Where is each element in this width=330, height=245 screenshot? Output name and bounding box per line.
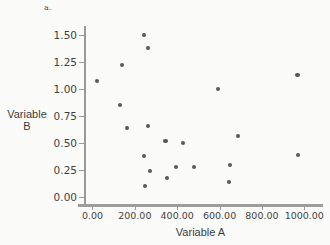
x-tick-label: 800.00 [245,210,278,221]
data-point [192,165,196,169]
data-point [227,180,231,184]
data-point [174,165,178,169]
data-point [228,163,232,167]
y-tick-label: 1.50 [54,29,77,41]
y-axis-title-line: B [2,120,52,132]
plot-area [84,26,317,204]
x-tick-label: 600.00 [203,210,236,221]
x-axis-line [78,204,323,207]
panel-label: a. [44,3,52,12]
x-axis-title: Variable A [84,226,317,238]
y-axis-title-line: Variable [2,108,52,120]
x-tick-label: 400.00 [161,210,194,221]
scatter-plot-figure: a. 0.000.250.500.751.001.251.50 0.00200.… [0,0,330,245]
data-point [295,73,299,77]
y-tick-label: 0.75 [54,110,77,122]
data-point [163,139,167,143]
y-tick-label: 0.25 [54,164,77,176]
y-axis-title: VariableB [2,108,52,132]
y-axis-line [84,26,86,204]
x-axis-tick-labels: 0.00200.00400.00600.00800.001000.00 [84,210,317,226]
y-tick-label: 1.00 [54,83,77,95]
data-point [143,184,147,188]
plot-background [84,26,317,204]
y-tick-label: 0.00 [54,191,77,203]
data-point [236,134,240,138]
data-point [216,87,220,91]
x-tick-label: 0.00 [82,210,103,221]
y-tick-label: 0.50 [54,137,77,149]
x-tick-label: 200.00 [118,210,151,221]
y-tick-label: 1.25 [54,56,77,68]
data-point [146,46,150,50]
x-tick-label: 1000.00 [285,210,324,221]
